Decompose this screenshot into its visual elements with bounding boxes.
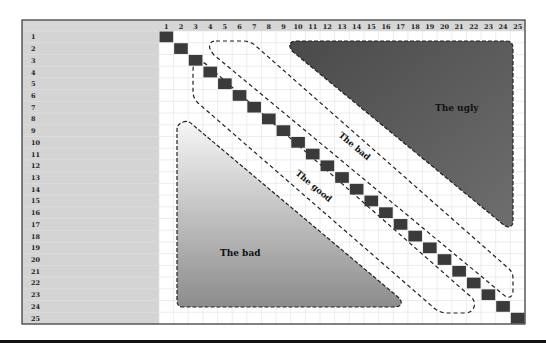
diagonal-cell [482,289,496,300]
row-header: 3 [31,57,36,65]
row-header-panel [22,20,159,324]
diagonal-cell [174,43,188,54]
diagonal-cell [350,184,364,195]
row-header: 2 [31,45,36,53]
row-header: 13 [31,174,41,182]
column-header: 16 [381,23,391,31]
column-header-band [22,20,525,31]
column-header: 4 [208,23,213,31]
row-header: 1 [31,33,36,41]
column-header: 22 [469,23,478,31]
diagonal-cell [511,313,525,324]
row-header: 22 [31,279,40,287]
bad-region-label: The bad [220,248,261,258]
diagonal-cell [321,160,335,171]
column-header: 7 [252,23,257,31]
diagonal-cell [262,114,276,125]
ugly-label: The ugly [435,103,479,113]
diagonal-cell [291,137,305,148]
row-header: 10 [31,139,41,147]
diagonal-cell [467,278,481,289]
good-band-label: The good [294,168,334,204]
column-header: 12 [323,23,332,31]
row-header: 25 [31,315,41,323]
column-header: 2 [179,23,184,31]
row-header: 11 [31,151,40,159]
column-header: 18 [411,23,421,31]
matrix-diagram: The ugly The bad The good The bad 123456… [0,0,546,348]
column-header: 14 [352,23,362,31]
column-header: 17 [396,23,405,31]
row-header: 7 [31,104,36,112]
diagonal-cell [438,254,452,265]
row-header: 21 [31,268,40,276]
row-header: 14 [31,186,41,194]
diagonal-cell [379,207,393,218]
row-header: 15 [31,197,41,205]
column-header: 8 [267,23,272,31]
column-header: 19 [425,23,435,31]
row-header: 19 [31,244,41,252]
column-header: 11 [308,23,317,31]
row-header: 24 [31,303,41,311]
column-header: 9 [281,23,286,31]
row-header: 12 [31,162,40,170]
row-header: 16 [31,209,41,217]
diagonal-cell [496,301,510,312]
diagonal-cell [306,149,320,160]
column-header: 1 [164,23,169,31]
diagonal-cell [364,196,378,207]
column-header: 3 [193,23,198,31]
column-header: 21 [455,23,464,31]
bad-band-label: The bad [337,130,373,162]
row-header: 18 [31,233,41,241]
diagonal-cell [452,266,466,277]
column-header: 6 [237,23,242,31]
diagonal-cell [394,219,408,230]
row-header: 6 [31,92,36,100]
row-header: 5 [31,80,36,88]
diagonal-cell [233,90,247,101]
column-header: 15 [367,23,377,31]
column-header: 25 [513,23,523,31]
column-header: 10 [294,23,304,31]
column-header: 24 [499,23,509,31]
column-header: 5 [223,23,228,31]
row-header: 8 [31,115,36,123]
row-header: 17 [31,221,40,229]
row-header: 23 [31,291,41,299]
diagonal-cell [218,78,232,89]
row-header: 20 [31,256,41,264]
bottom-rule [0,340,546,343]
diagonal-cell [160,32,174,43]
column-header: 23 [484,23,494,31]
column-header: 13 [337,23,347,31]
diagonal-cell [423,242,437,253]
diagonal-cell [335,172,349,183]
diagonal-cell [277,125,291,136]
row-header: 4 [31,69,36,77]
row-header: 9 [31,127,36,135]
diagonal-cell [203,67,217,78]
diagonal-cell [408,231,422,242]
column-header: 20 [440,23,450,31]
diagonal-cell [247,102,261,113]
diagonal-cell [189,55,203,66]
